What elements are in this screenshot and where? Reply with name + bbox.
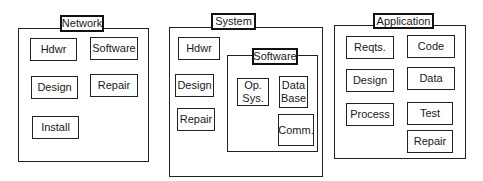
network-node-hdwr: Hdwr <box>30 38 77 61</box>
system-node-repair: Repair <box>177 108 215 131</box>
application-panel-title: Application <box>373 13 434 29</box>
application-node-reqts: Reqts. <box>346 36 394 59</box>
system-panel-title: System <box>211 13 256 30</box>
application-node-test: Test <box>407 102 453 125</box>
system-node-design: Design <box>175 74 214 97</box>
network-node-repair: Repair <box>90 74 138 97</box>
system-node-hdwr: Hdwr <box>178 37 220 60</box>
application-node-code: Code <box>407 35 455 58</box>
network-node-software: Software <box>90 37 138 60</box>
network-node-design: Design <box>31 76 78 99</box>
network-panel-title: Network <box>60 15 104 32</box>
system-software-node-data-base: Data Base <box>279 76 308 108</box>
network-node-install: Install <box>32 116 79 139</box>
system-software-node-comm: Comm. <box>278 114 314 146</box>
application-node-design: Design <box>346 69 394 92</box>
system-software-subpanel-title: Software <box>252 48 298 65</box>
application-node-process: Process <box>346 103 394 126</box>
application-node-data: Data <box>407 67 455 90</box>
application-node-repair: Repair <box>407 130 453 153</box>
system-software-node-op-sys: Op. Sys. <box>237 78 269 106</box>
